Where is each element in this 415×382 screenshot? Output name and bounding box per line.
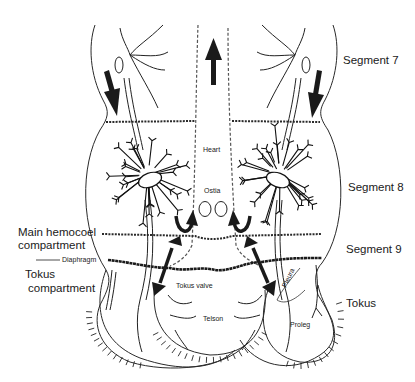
bristle	[91, 333, 97, 335]
bristle	[338, 311, 344, 312]
arrow-right-lateral-down	[308, 70, 324, 118]
label-telson: Telson	[203, 315, 223, 322]
trachea-proleg-right	[312, 265, 322, 318]
label-main-hemocoel: Main hemocoel	[18, 226, 96, 238]
bristle	[337, 327, 343, 328]
bristle	[294, 363, 295, 369]
bristle	[307, 362, 308, 368]
label-tokus-valve: Tokus valve	[176, 282, 213, 289]
bristle	[153, 332, 158, 335]
segment-7-8-boundary	[106, 121, 195, 122]
bristle	[254, 341, 259, 345]
bristle	[250, 345, 254, 349]
segment-7-8-boundary-right	[232, 121, 320, 122]
bristle	[336, 302, 342, 304]
bristles	[86, 302, 344, 369]
label-segment-9: Segment 9	[346, 243, 402, 255]
bristle	[185, 353, 187, 359]
trachea-trunk-left	[137, 200, 152, 352]
bristle	[166, 345, 170, 349]
bristle	[94, 338, 99, 341]
segment-8-9-boundary	[102, 234, 322, 239]
bristle	[258, 337, 263, 340]
bristle	[336, 334, 342, 336]
trachea-left-seg7	[115, 25, 168, 150]
arrow-heart-anterior	[205, 38, 222, 85]
bristle	[88, 328, 94, 330]
bristle	[220, 356, 221, 362]
label-ostia: Ostia	[204, 187, 220, 194]
label-segment-8: Segment 8	[348, 181, 404, 193]
label-proleg: Proleg	[290, 321, 310, 329]
trachea-branch	[258, 153, 271, 166]
trachea-branch	[155, 149, 172, 168]
trachea-branch	[149, 137, 157, 165]
bristle	[87, 323, 93, 324]
trachea-branch	[286, 140, 313, 169]
label-tokus-compartment: Tokus	[25, 268, 55, 280]
trachea-right-seg7	[257, 25, 310, 150]
trachea-branch	[250, 184, 271, 207]
bristle	[192, 355, 194, 361]
label-tokus: Tokus	[346, 297, 376, 309]
arrow-left-ostia-inflow	[176, 210, 198, 231]
bristle	[140, 362, 141, 368]
arrow-right-ostia-inflow	[228, 210, 250, 231]
label-tokus-compartment-2: compartment	[28, 282, 96, 294]
arrow-right-tokus-exchange	[244, 236, 276, 296]
bristle	[108, 351, 112, 355]
ostium-right	[215, 202, 227, 217]
bristle	[157, 337, 162, 340]
label-segment-7: Segment 7	[343, 54, 399, 66]
bristle	[98, 343, 103, 346]
label-heart: Heart	[203, 146, 220, 153]
trachea-branch	[151, 184, 165, 216]
trachea-telson-branches	[168, 295, 262, 350]
label-main-hemocoel-2: compartment	[18, 239, 86, 251]
bristle	[172, 348, 176, 353]
bristle	[102, 347, 106, 351]
bristle	[239, 351, 242, 356]
bristle	[113, 354, 116, 359]
bristle	[178, 351, 181, 356]
ostium-left	[199, 202, 211, 217]
bristle	[161, 341, 166, 345]
bristle	[133, 361, 135, 367]
trachea-branch	[273, 142, 281, 164]
label-pleura: Pleura	[281, 267, 296, 288]
label-diaphragm: Diaphragm	[62, 256, 96, 264]
anatomy-diagram: Segment 7 Segment 8 Segment 9 Tokus Main…	[0, 0, 415, 382]
trachea-proleg-left	[106, 270, 116, 310]
trachea-branch	[158, 182, 175, 195]
bristle	[199, 356, 200, 362]
